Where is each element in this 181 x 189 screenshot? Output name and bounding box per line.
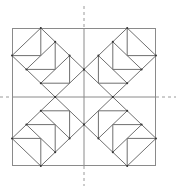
vertex-dot xyxy=(126,165,128,167)
vertex-dot xyxy=(25,124,27,126)
pattern-line xyxy=(12,28,41,56)
vertex-dot xyxy=(69,55,71,57)
vertex-dot xyxy=(112,41,114,43)
vertex-dot xyxy=(11,137,13,139)
vertex-dot xyxy=(40,110,42,112)
quadrant-top-left xyxy=(11,27,85,98)
vertex-dot xyxy=(69,137,71,139)
vertex-dot xyxy=(40,82,42,84)
vertex-dot xyxy=(83,68,85,70)
quadrant-bottom-right xyxy=(83,96,157,167)
vertex-dot xyxy=(141,124,143,126)
vertex-dot xyxy=(54,96,56,98)
vertex-dot xyxy=(155,137,157,139)
vertex-dot xyxy=(141,68,143,70)
quadrant-top-right xyxy=(83,27,157,98)
pattern-line xyxy=(127,138,156,166)
quadrant-bottom-left xyxy=(11,96,85,167)
pattern-line xyxy=(127,28,156,56)
vertex-dot xyxy=(126,110,128,112)
quilt-block-diagram xyxy=(0,0,181,189)
vertex-dot xyxy=(54,151,56,153)
vertex-dot xyxy=(112,151,114,153)
vertex-dot xyxy=(54,41,56,43)
vertex-dot xyxy=(126,82,128,84)
vertex-dot xyxy=(40,27,42,29)
vertex-dot xyxy=(126,27,128,29)
vertex-dot xyxy=(97,137,99,139)
vertex-dot xyxy=(25,68,27,70)
vertex-dot xyxy=(40,165,42,167)
vertex-dot xyxy=(97,55,99,57)
vertex-dot xyxy=(112,96,114,98)
vertex-dot xyxy=(155,55,157,57)
pattern-line xyxy=(12,138,41,166)
vertex-dot xyxy=(11,55,13,57)
vertex-dot xyxy=(83,124,85,126)
